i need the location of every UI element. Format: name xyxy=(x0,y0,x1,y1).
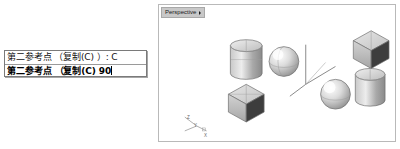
object-group-right[interactable] xyxy=(321,31,389,109)
chevron-right-icon[interactable] xyxy=(199,11,201,15)
object-group-left[interactable] xyxy=(228,40,298,122)
viewport-tab-label: Perspective xyxy=(165,8,196,17)
cube-left[interactable] xyxy=(228,84,264,122)
viewport-tab-perspective[interactable]: Perspective xyxy=(161,7,205,18)
text-cursor xyxy=(111,66,112,75)
command-prompt-box[interactable]: 第二参考点 （复制(C) ）: C 第二参考点 （复制(C) 90 xyxy=(4,50,147,77)
cube-right[interactable] xyxy=(353,31,389,69)
command-line-history: 第二参考点 （复制(C) ）: C xyxy=(5,51,146,64)
sphere-left[interactable] xyxy=(269,47,299,77)
ucs-axis-label-x: X xyxy=(204,133,207,138)
viewport-canvas[interactable] xyxy=(159,5,395,142)
ucs-axis-label-z: Z xyxy=(187,115,190,120)
viewport-panel[interactable]: Z Y X Perspective xyxy=(158,4,396,142)
cylinder-left[interactable] xyxy=(230,40,262,80)
sphere-right[interactable] xyxy=(321,79,351,109)
command-line-input[interactable]: 第二参考点 （复制(C) 90 xyxy=(5,64,146,78)
cylinder-right[interactable] xyxy=(355,68,385,106)
command-line-input-text: 第二参考点 （复制(C) 90 xyxy=(7,66,111,76)
ucs-axis-label-y: Y xyxy=(194,123,197,128)
